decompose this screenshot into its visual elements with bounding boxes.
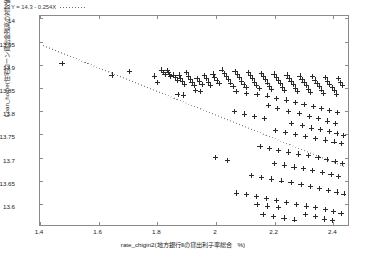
x-tick-label: 1.6 [93, 228, 102, 235]
scatter-chart: Y = 14.3 - 0.254X 1413.9513.913.8513.813… [0, 0, 366, 257]
regression-equation-annotation: Y = 14.3 - 0.254X [11, 4, 86, 10]
equation-text: Y = 14.3 - 0.254X [11, 4, 56, 10]
plot-area [39, 15, 349, 226]
x-tick-label: 2 [213, 228, 216, 235]
x-tick-label: 2.2 [269, 228, 278, 235]
x-tick-label: 1.4 [35, 228, 44, 235]
x-tick-label: 2.4 [328, 228, 337, 235]
x-axis-title: rate_chigin2(地方銀行Ⅱの貸出利子率総合 %) [0, 240, 366, 249]
dotted-line-sample-icon [60, 7, 86, 8]
data-points-layer [40, 16, 348, 225]
x-tick-label: 1.8 [152, 228, 161, 235]
y-axis-title: Loan_home(住宅ローン貸出金残高の対数値) [2, 0, 11, 147]
